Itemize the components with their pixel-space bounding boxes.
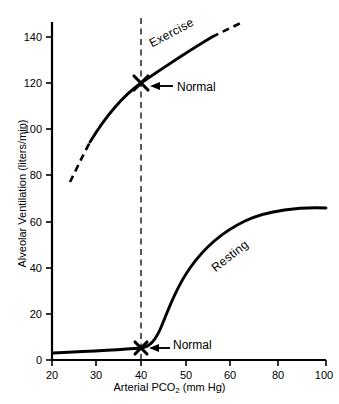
exercise-curve-dashed-upper — [212, 22, 243, 37]
y-tick-label-0: 0 — [18, 355, 42, 366]
x-tick-label-40: 40 — [135, 370, 147, 381]
x-tick-label-60: 60 — [224, 370, 236, 381]
x-tick-label-50: 50 — [180, 370, 192, 381]
x-tick-label-20: 20 — [46, 370, 58, 381]
annotation-normal-resting: Normal — [173, 339, 212, 351]
ventilation-pco2-chart: 20 30 40 50 60 80 100 0 20 40 60 80 100 … — [0, 0, 339, 404]
annotation-arrow-normal-resting — [149, 344, 170, 352]
chart-plot-area — [0, 0, 339, 404]
x-axis-title: Arterial PCO2 (mm Hg) — [0, 381, 339, 395]
y-tick-label-20: 20 — [18, 309, 42, 320]
exercise-curve-dashed-lower — [70, 142, 90, 182]
annotation-arrow-normal-exercise — [150, 82, 173, 90]
resting-curve — [53, 208, 326, 353]
x-axis-title-main: Arterial PCO — [113, 381, 175, 393]
x-tick-label-80: 80 — [272, 370, 284, 381]
x-axis-title-units: (mm Hg) — [180, 381, 226, 393]
annotation-normal-exercise: Normal — [177, 81, 216, 93]
marker-normal-exercise — [134, 76, 148, 90]
y-axis-title: Alveolar Ventilation (liters/min) — [17, 94, 28, 294]
x-tick-label-30: 30 — [90, 370, 102, 381]
y-tick-label-140: 140 — [18, 32, 42, 43]
axes — [52, 22, 326, 360]
x-axis-title-subscript: 2 — [175, 386, 179, 395]
y-tick-label-120: 120 — [18, 78, 42, 89]
x-tick-label-100: 100 — [315, 370, 333, 381]
